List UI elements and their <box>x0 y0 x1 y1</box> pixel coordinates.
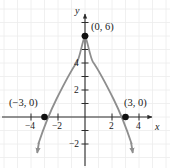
vertex-point-label: (0, 6) <box>91 22 114 33</box>
coordinate-plane-svg <box>0 0 170 168</box>
y-tick-label-minus-2: −2 <box>69 140 79 150</box>
left-root-point-label: (−3, 0) <box>9 98 38 109</box>
point-right-root <box>122 114 129 121</box>
x-tick-label-2: 2 <box>109 122 114 132</box>
point-left-root <box>41 114 48 121</box>
y-tick-label-4: 4 <box>74 59 79 69</box>
point-vertex <box>82 33 89 40</box>
right-root-point-label: (3, 0) <box>124 98 147 109</box>
x-tick-label-minus-4: −4 <box>25 122 35 132</box>
x-tick-label-minus-2: −2 <box>52 122 62 132</box>
x-tick-label-4: 4 <box>136 122 141 132</box>
y-axis-label: y <box>75 6 79 16</box>
y-tick-label-2: 2 <box>74 86 79 96</box>
parabola-graph-figure: (0, 6) (−3, 0) (3, 0) x y −4 −2 2 4 4 2 … <box>0 0 170 168</box>
x-axis-label: x <box>155 122 159 132</box>
